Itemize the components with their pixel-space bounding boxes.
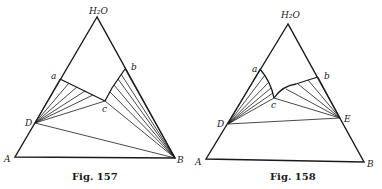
figure-157: H₂O A B a b c D Fig. 157 bbox=[3, 6, 184, 182]
label-B: B bbox=[366, 159, 374, 169]
label-a: a bbox=[252, 64, 257, 74]
caption-fig158: Fig. 158 bbox=[270, 171, 316, 182]
triangle-outline bbox=[15, 17, 175, 158]
label-apex: H₂O bbox=[280, 10, 300, 20]
caption-fig157: Fig. 157 bbox=[72, 171, 118, 182]
label-a: a bbox=[51, 71, 56, 81]
label-b: b bbox=[131, 62, 137, 72]
line-D-E bbox=[228, 118, 340, 124]
curve-a-c bbox=[60, 79, 105, 101]
label-B: B bbox=[176, 155, 184, 165]
label-D: D bbox=[24, 118, 32, 128]
figure-158: H₂O A B a b c D E Fig. 158 bbox=[194, 10, 374, 182]
triangle-outline bbox=[206, 24, 364, 162]
label-b: b bbox=[324, 71, 330, 81]
tie-lines-D bbox=[228, 69, 274, 124]
label-c: c bbox=[102, 104, 107, 114]
label-A: A bbox=[3, 154, 11, 164]
tie-lines-D bbox=[35, 79, 105, 123]
label-c: c bbox=[271, 100, 276, 110]
label-E: E bbox=[343, 114, 351, 124]
label-D: D bbox=[216, 119, 224, 129]
label-apex: H₂O bbox=[88, 6, 108, 16]
label-A: A bbox=[194, 157, 202, 167]
tie-lines-E bbox=[274, 77, 340, 118]
phase-diagrams: H₂O A B a b c D Fig. 157 H₂O A B bbox=[0, 0, 382, 189]
